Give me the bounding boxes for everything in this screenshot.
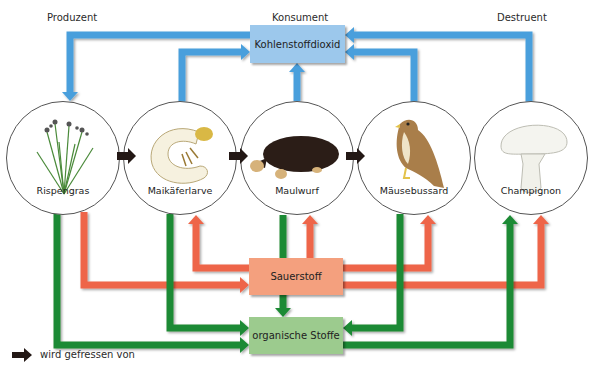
org-from-grub-head (240, 320, 249, 336)
o2-from-grass-head (240, 277, 249, 293)
oxygen-box: Sauerstoff (249, 258, 343, 295)
header-producer: Produzent (47, 12, 97, 23)
co2-box-label: Kohlenstoffdioxid (255, 39, 341, 50)
co2-from-mushroom (354, 35, 529, 103)
organic-box: organische Stoffe (249, 317, 343, 354)
co2-from-buzzard-head (345, 44, 354, 60)
o2-to-mole-head (302, 215, 318, 224)
co2-from-mole-head (289, 63, 305, 72)
o2-from-grass (84, 212, 240, 285)
organism-champignon: Champignon (474, 101, 588, 215)
co2-from-grub (182, 52, 241, 104)
mushroom-icon (475, 102, 589, 216)
buzzard-icon (358, 102, 472, 216)
o2-to-grub (196, 224, 249, 268)
legend-food-label: wird gefressen von (40, 349, 135, 360)
oxygen-box-label: Sauerstoff (270, 271, 321, 282)
organic-box-label: organische Stoffe (252, 330, 339, 341)
org-from-buzzard-head (343, 320, 352, 336)
mole-icon (241, 102, 355, 216)
grass-icon (7, 102, 121, 216)
o2-to-grub-head (188, 215, 204, 224)
co2-from-grub-head (241, 44, 250, 60)
grub-icon (124, 102, 238, 216)
organism-label: Mäusebussard (358, 185, 470, 196)
co2-to-grass-head (62, 92, 78, 101)
co2-to-grass (70, 35, 250, 92)
ecosystem-diagram: Produzent Konsument Destruent Kohlenstof… (0, 0, 596, 372)
org-to-mushroom-head (502, 215, 518, 224)
organism-label: Rispengras (7, 185, 119, 196)
o2-to-mushroom-head (533, 215, 549, 224)
org-from-grass-head (240, 337, 249, 353)
organism-label: Maulwurf (241, 185, 353, 196)
o2-to-buzzard (343, 224, 428, 268)
header-consumer: Konsument (272, 12, 328, 23)
org-from-mole-head (275, 308, 291, 317)
o2-to-buzzard-head (420, 215, 436, 224)
organism-maikaeferlarve: Maikäferlarve (123, 101, 237, 215)
co2-box: Kohlenstoffdioxid (250, 25, 345, 63)
organism-maeusebussard: Mäusebussard (357, 101, 471, 215)
organism-label: Champignon (475, 185, 587, 196)
co2-from-buzzard (354, 52, 414, 104)
co2-from-mushroom-head (345, 27, 354, 43)
organism-maulwurf: Maulwurf (240, 101, 354, 215)
header-decomposer: Destruent (497, 12, 547, 23)
organism-rispengras: Rispengras (6, 101, 120, 215)
organism-label: Maikäferlarve (124, 185, 236, 196)
